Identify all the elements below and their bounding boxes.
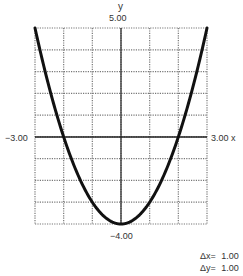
dx-label: Δx= bbox=[200, 251, 216, 261]
x-axis-label: x bbox=[231, 133, 236, 143]
y-max-tick-label: 5.00 bbox=[109, 13, 127, 23]
dx-scale-label: Δx= 1.00 bbox=[200, 251, 239, 261]
dy-value: 1.00 bbox=[221, 263, 239, 273]
dx-value: 1.00 bbox=[221, 251, 239, 261]
y-axis-label: y bbox=[118, 2, 123, 12]
x-max-tick-label: 3.00 bbox=[211, 133, 229, 143]
dy-scale-label: Δy= 1.00 bbox=[200, 263, 239, 273]
dy-label: Δy= bbox=[200, 263, 216, 273]
x-min-tick-label: −3.00 bbox=[5, 133, 28, 143]
y-min-tick-label: −4.00 bbox=[110, 231, 133, 241]
